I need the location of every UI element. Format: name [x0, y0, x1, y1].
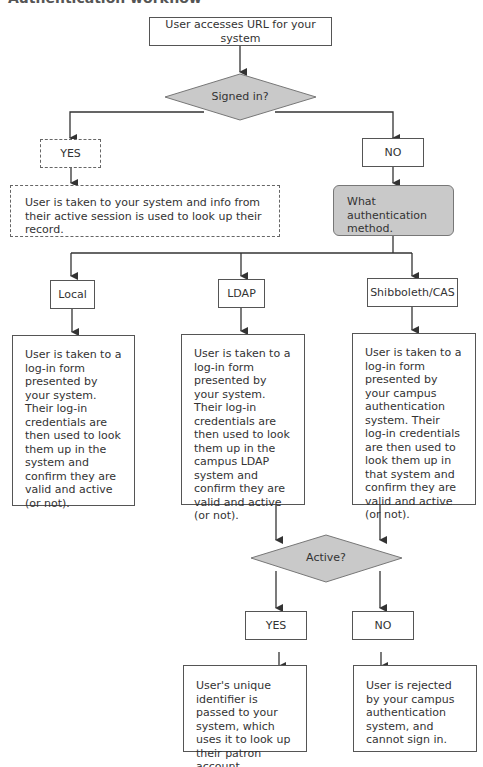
signed-in-result: User is taken to your system and info fr…: [10, 185, 280, 237]
active-label: Active?: [276, 551, 376, 564]
active-no-result: User is rejected by your campus authenti…: [353, 665, 477, 752]
auth-method-node: What authentication method.: [333, 185, 454, 236]
active-yes-result: User's unique identifier is passed to yo…: [183, 665, 307, 752]
yes-node: YES: [40, 139, 101, 168]
no-node: NO: [362, 138, 424, 167]
shibboleth-description: User is taken to a log-in form presented…: [352, 333, 476, 505]
shibboleth-cas-node: Shibboleth/CAS: [367, 278, 458, 307]
ldap-node: LDAP: [218, 279, 265, 308]
local-description: User is taken to a log-in form presented…: [12, 335, 135, 506]
start-node: User accesses URL for your system: [149, 17, 332, 46]
local-node: Local: [50, 280, 95, 309]
signed-in-label: Signed in?: [190, 90, 290, 103]
active-no-node: NO: [352, 611, 414, 640]
active-yes-node: YES: [245, 611, 307, 640]
ldap-description: User is taken to a log-in form presented…: [181, 334, 305, 505]
